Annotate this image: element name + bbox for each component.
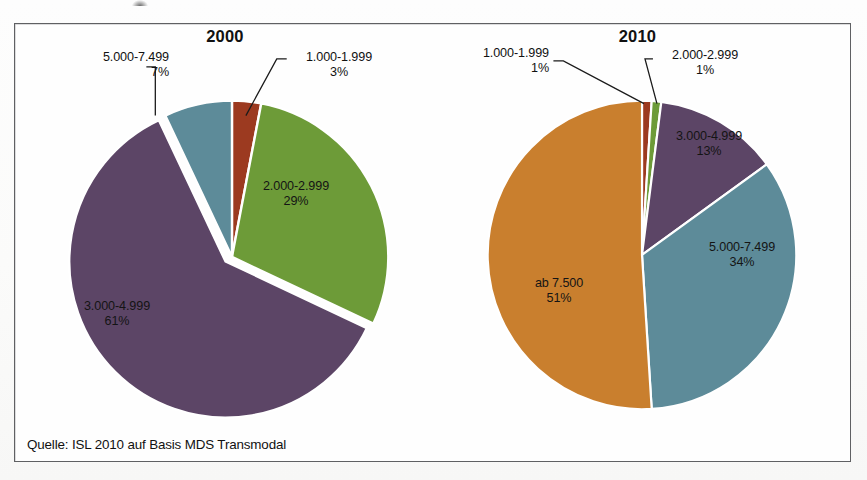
callout-percent: 1%: [453, 61, 549, 76]
callout-2000-2999-2010: 2.000-2.999 1%: [656, 48, 754, 79]
slice-label-category: ab 7.500: [513, 276, 605, 291]
chart-panel-2010: 2010 1.000-1.999 1% 2.000-2.999 1%: [435, 24, 852, 461]
slice-label-3000-4999-2010: 3.000-4.999 13%: [655, 129, 763, 160]
callout-5000-7499-2000: 5.000-7.499 7%: [71, 50, 169, 81]
chart-panel-2000: 2000 5.000-7.499 7% 1.000-1.999 3%: [15, 24, 435, 461]
callout-1000-1999-2010: 1.000-1.999 1%: [453, 46, 549, 77]
slice-label-category: 2.000-2.999: [242, 179, 350, 194]
slice-label-category: 3.000-4.999: [63, 299, 171, 314]
chart-frame: 2000 5.000-7.499 7% 1.000-1.999 3%: [14, 23, 851, 462]
slice-label-percent: 29%: [242, 194, 350, 209]
slice-label-percent: 61%: [63, 314, 171, 329]
source-note: Quelle: ISL 2010 auf Basis MDS Transmoda…: [27, 437, 286, 452]
slice-label-ab-7500-2010: ab 7.500 51%: [513, 276, 605, 307]
callout-1000-1999-2000: 1.000-1.999 3%: [289, 50, 389, 81]
slice-label-2000-2999-2000: 2.000-2.999 29%: [242, 179, 350, 210]
pie-chart-2000: [15, 24, 435, 461]
pie-slice-ab-7500-2010[interactable]: [488, 101, 652, 410]
slice-label-3000-4999-2000: 3.000-4.999 61%: [63, 299, 171, 330]
callout-category: 2.000-2.999: [656, 48, 754, 63]
callout-percent: 1%: [656, 63, 754, 78]
slice-label-category: 5.000-7.499: [688, 240, 796, 255]
callout-category: 1.000-1.999: [289, 50, 389, 65]
leader-line-1000-1999-2010: [553, 61, 644, 104]
callout-percent: 3%: [289, 65, 389, 80]
callout-category: 1.000-1.999: [453, 46, 549, 61]
slice-label-percent: 34%: [688, 255, 796, 270]
callout-percent: 7%: [71, 65, 169, 80]
slice-label-percent: 13%: [655, 144, 763, 159]
scan-artifact: [132, 0, 148, 6]
slice-label-5000-7499-2010: 5.000-7.499 34%: [688, 240, 796, 271]
callout-category: 5.000-7.499: [71, 50, 169, 65]
slice-label-percent: 51%: [513, 291, 605, 306]
slice-label-category: 3.000-4.999: [655, 129, 763, 144]
